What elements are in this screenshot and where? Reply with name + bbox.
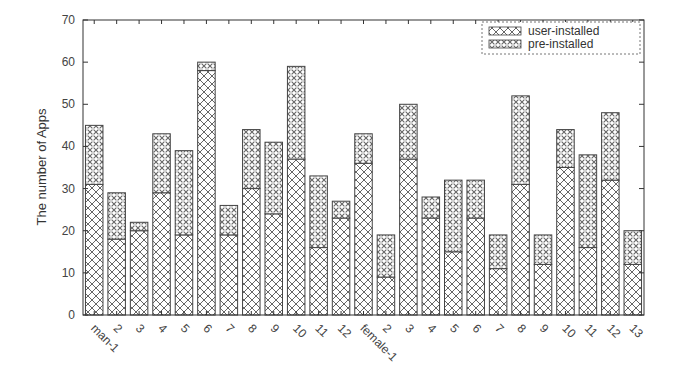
x-tick-label: 7 bbox=[492, 321, 507, 336]
x-tick-label: 3 bbox=[133, 321, 148, 336]
y-tick-label: 10 bbox=[62, 266, 76, 280]
x-tick-label: 4 bbox=[425, 321, 440, 336]
bar-user-installed bbox=[265, 214, 283, 315]
bar-group bbox=[579, 155, 597, 315]
bar-user-installed bbox=[467, 218, 485, 315]
bar-user-installed bbox=[377, 277, 395, 315]
x-tick-label: 12 bbox=[604, 321, 624, 341]
bar-pre-installed bbox=[175, 151, 193, 235]
x-tick-label: 9 bbox=[537, 321, 552, 336]
bar-pre-installed bbox=[287, 66, 305, 159]
x-tick-label: 2 bbox=[111, 321, 126, 336]
bar-pre-installed bbox=[602, 113, 620, 180]
bar-pre-installed bbox=[108, 193, 126, 239]
legend-swatch-user-installed bbox=[489, 27, 521, 35]
x-tick-label: 11 bbox=[312, 321, 331, 340]
bar-pre-installed bbox=[220, 205, 238, 235]
bar-pre-installed bbox=[579, 155, 597, 248]
bar-pre-installed bbox=[557, 130, 575, 168]
bar-group bbox=[198, 62, 216, 315]
bar-pre-installed bbox=[377, 235, 395, 277]
x-tick-label: 8 bbox=[514, 321, 529, 336]
bar-group bbox=[243, 130, 261, 315]
x-tick-label: 6 bbox=[470, 321, 485, 336]
bar-group bbox=[602, 113, 620, 315]
bar-group bbox=[220, 205, 238, 315]
bar-user-installed bbox=[422, 218, 440, 315]
x-tick-label: 10 bbox=[290, 321, 310, 341]
bar-group bbox=[332, 201, 350, 315]
bar-group bbox=[108, 193, 126, 315]
legend-swatch-pre-installed bbox=[489, 40, 521, 48]
y-tick-label: 70 bbox=[62, 13, 76, 27]
y-tick-label: 40 bbox=[62, 139, 76, 153]
bar-user-installed bbox=[220, 235, 238, 315]
bar-user-installed bbox=[489, 269, 507, 315]
bar-pre-installed bbox=[400, 104, 418, 159]
bar-group bbox=[265, 142, 283, 315]
bar-group bbox=[467, 180, 485, 315]
bar-group bbox=[400, 104, 418, 315]
bar-user-installed bbox=[624, 264, 642, 315]
bar-pre-installed bbox=[265, 142, 283, 214]
y-tick-label: 30 bbox=[62, 182, 76, 196]
bar-user-installed bbox=[579, 248, 597, 315]
bar-pre-installed bbox=[130, 222, 148, 230]
x-tick-label: 11 bbox=[582, 321, 601, 340]
x-tick-label: 13 bbox=[627, 321, 647, 341]
bar-user-installed bbox=[198, 71, 216, 315]
y-tick-label: 60 bbox=[62, 55, 76, 69]
bar-user-installed bbox=[287, 159, 305, 315]
bar-pre-installed bbox=[85, 125, 103, 184]
bar-user-installed bbox=[557, 168, 575, 316]
bar-user-installed bbox=[602, 180, 620, 315]
bar-user-installed bbox=[310, 248, 328, 315]
x-tick-label: female-1 bbox=[357, 321, 400, 364]
legend-label: pre-installed bbox=[528, 37, 593, 51]
bar-group bbox=[534, 235, 552, 315]
legend-label: user-installed bbox=[528, 24, 599, 38]
x-tick-label: 5 bbox=[447, 321, 462, 336]
bar-group bbox=[512, 96, 530, 315]
x-tick-label: 3 bbox=[402, 321, 417, 336]
bar-pre-installed bbox=[310, 176, 328, 248]
bar-pre-installed bbox=[422, 197, 440, 218]
bar-pre-installed bbox=[332, 201, 350, 218]
bar-group bbox=[377, 235, 395, 315]
bar-user-installed bbox=[332, 218, 350, 315]
x-tick-label: 4 bbox=[155, 321, 170, 336]
bar-group bbox=[489, 235, 507, 315]
bar-group bbox=[85, 125, 103, 315]
bar-group bbox=[624, 231, 642, 315]
bar-group bbox=[153, 134, 171, 315]
bar-group bbox=[445, 180, 463, 315]
x-tick-label: 7 bbox=[223, 321, 238, 336]
bar-user-installed bbox=[130, 231, 148, 315]
bar-group bbox=[557, 130, 575, 315]
bar-pre-installed bbox=[243, 130, 261, 189]
x-tick-label: 9 bbox=[268, 321, 283, 336]
x-tick-label: 5 bbox=[178, 321, 193, 336]
bar-pre-installed bbox=[445, 180, 463, 252]
bar-pre-installed bbox=[467, 180, 485, 218]
bar-group bbox=[130, 222, 148, 315]
bar-pre-installed bbox=[153, 134, 171, 193]
bar-pre-installed bbox=[198, 62, 216, 70]
bar-pre-installed bbox=[534, 235, 552, 265]
y-tick-label: 0 bbox=[68, 308, 75, 322]
bar-group bbox=[422, 197, 440, 315]
bar-user-installed bbox=[243, 189, 261, 315]
x-tick-label: 6 bbox=[200, 321, 215, 336]
bar-user-installed bbox=[355, 163, 373, 315]
bar-user-installed bbox=[85, 184, 103, 315]
bar-user-installed bbox=[108, 239, 126, 315]
bar-pre-installed bbox=[489, 235, 507, 269]
x-tick-label: 2 bbox=[380, 321, 395, 336]
x-tick-label: 10 bbox=[559, 321, 579, 341]
bar-pre-installed bbox=[512, 96, 530, 185]
y-axis-label: The number of Apps bbox=[34, 108, 49, 226]
bar-group bbox=[175, 151, 193, 315]
bar-pre-installed bbox=[355, 134, 373, 164]
bar-group bbox=[355, 134, 373, 315]
y-tick-label: 50 bbox=[62, 97, 76, 111]
